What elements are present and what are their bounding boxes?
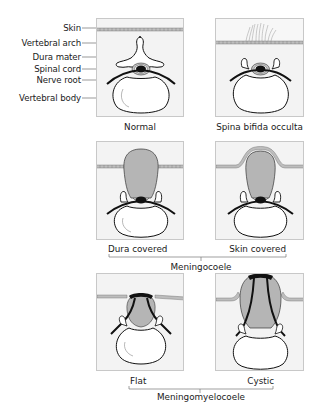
vertebral-arch-left: [120, 191, 128, 202]
meningeal-sac: [246, 151, 275, 198]
vertebral-arch-right: [273, 191, 281, 202]
caption-flat: Flat: [130, 376, 160, 386]
vertebral-arch-left: [241, 58, 249, 69]
panel-cystic: [215, 273, 304, 371]
label-skin: Skin: [63, 23, 81, 33]
panel-spina-bifida-occulta: [215, 18, 304, 117]
caption-dura-covered: Dura covered: [108, 244, 168, 254]
caption-cystic: Cystic: [240, 376, 274, 386]
group-label-meningocoele: Meningocoele: [150, 262, 252, 272]
vertebral-arch-right: [154, 191, 162, 202]
caption-normal: Normal: [96, 122, 184, 132]
skin-layer: [216, 41, 304, 44]
label-spinal-cord: Spinal cord: [34, 64, 81, 74]
vertebral-arch-left: [240, 191, 248, 202]
vertebral-body: [116, 328, 165, 364]
label-nerve-root: Nerve root: [36, 75, 81, 85]
vertebral-body: [233, 336, 287, 369]
panel-skin-covered: [215, 141, 304, 240]
vertebral-body: [233, 75, 288, 113]
vertebral-body: [234, 206, 286, 237]
label-vertebral-arch: Vertebral arch: [22, 38, 81, 48]
meningeal-sac: [124, 149, 158, 198]
panel-flat: [96, 273, 184, 371]
caption-skin-covered: Skin covered: [226, 244, 286, 254]
panel-dura-covered: [96, 141, 184, 240]
label-dura-mater: Dura mater: [33, 52, 81, 62]
panel-normal: [96, 18, 184, 117]
vertebral-arch-right: [272, 58, 280, 69]
group-label-meningomyelocoele: Meningomyelocoele: [140, 392, 262, 402]
caption-spina-bifida-occulta: Spina bifida occulta: [212, 122, 307, 132]
skin-layer: [97, 28, 184, 31]
label-vertebral-body: Vertebral body: [19, 93, 81, 103]
